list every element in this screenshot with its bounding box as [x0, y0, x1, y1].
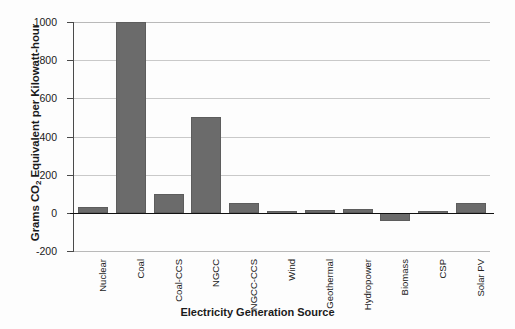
y-axis-tick-label: 1000	[34, 16, 57, 28]
x-axis-category-label: Geothermal	[324, 259, 335, 309]
y-axis-tick: -200	[67, 251, 74, 252]
x-axis-category-label: Biomass	[399, 259, 410, 295]
x-axis-category-label: Solar PV	[475, 259, 486, 297]
y-axis-tick-label: 600	[39, 92, 57, 104]
x-axis-category-label: NGCC-CCS	[248, 259, 259, 310]
x-axis-category-label: Nuclear	[97, 259, 108, 292]
y-axis-tick-label: -200	[36, 245, 57, 257]
bar	[191, 117, 221, 212]
y-axis-tick: 200	[67, 175, 74, 176]
y-axis-title-subscript: 2	[34, 181, 43, 185]
y-axis-tick: 600	[67, 98, 74, 99]
gridline	[74, 251, 490, 252]
y-axis-tick-label: 200	[39, 169, 57, 181]
y-axis-tick-label: 400	[39, 131, 57, 143]
x-axis-title: Electricity Generation Source	[0, 306, 515, 318]
y-axis-tick: 400	[67, 137, 74, 138]
plot-area: 10008006004002000-200	[74, 22, 490, 251]
bar	[229, 203, 259, 213]
x-axis-category-label: Coal-CCS	[173, 259, 184, 302]
bar	[154, 194, 184, 213]
zero-line	[70, 213, 494, 215]
y-axis-tick-label: 0	[51, 207, 57, 219]
x-axis-category-label: CSP	[437, 259, 448, 279]
y-axis-tick-label: 800	[39, 54, 57, 66]
y-axis-title-prefix: Grams CO	[29, 185, 41, 241]
bar	[456, 203, 486, 213]
x-axis-category-label: NGCC	[210, 259, 221, 287]
bar-chart: Grams CO2 Equivalent per Kilowatt-hour 1…	[0, 0, 515, 329]
y-axis-tick: 800	[67, 60, 74, 61]
bar	[116, 22, 146, 213]
x-axis-category-label: Coal	[135, 259, 146, 279]
x-axis-category-label: Hydropower	[362, 259, 373, 310]
y-axis-tick: 1000	[67, 22, 74, 23]
x-axis-category-label: Wind	[286, 259, 297, 281]
